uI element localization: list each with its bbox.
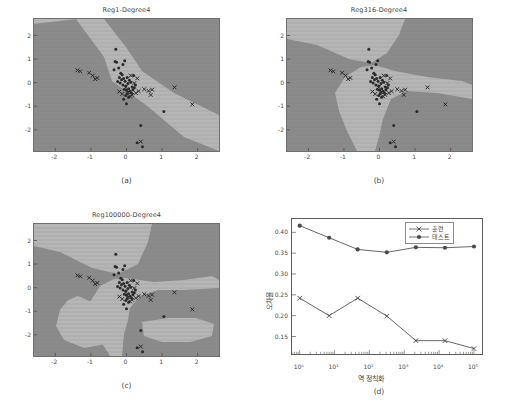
scatter-point-circle [124,94,127,97]
scatter-point-circle [392,124,395,127]
scatter-point-circle [114,48,117,51]
scatter-point-circle [386,86,389,89]
x-tick-label: 0 [377,153,381,160]
y-tick-label: -1 [21,307,31,314]
x-tick-label: 10² [363,363,373,370]
y-tick-label: 1 [274,55,284,62]
x-tick-label: 10⁵ [468,363,478,370]
scatter-point-circle [139,329,142,332]
legend-label-train: 훈련 [430,225,444,233]
figure-footer [0,407,505,417]
scatter-point-circle [376,59,379,62]
y-tick-label: -2 [21,125,31,132]
data-point-circle [385,250,389,254]
data-point-cross [327,313,332,318]
y-tick-label: 0.40 [267,228,288,235]
scatter-point-circle [133,86,136,89]
x-tick-label: 10⁰ [294,363,304,370]
x-tick-label: 2 [195,358,199,365]
y-tick-label: 1 [21,260,31,267]
scatter-point-circle [126,82,129,85]
panel-b-axes [286,18,473,152]
legend-label-test: 테스트 [430,233,450,241]
panel-a-axes [33,18,220,152]
data-point-circle [472,244,476,248]
panel-c-caption: (c) [0,381,253,390]
y-tick-label: -1 [21,102,31,109]
scatter-point-circle [415,110,418,113]
scatter-point-circle [377,80,380,83]
y-tick-label: 2 [21,236,31,243]
x-tick-label: -2 [304,153,310,160]
decision-region-lobe-right [142,318,214,342]
y-tick-label: 0.35 [267,249,288,256]
scatter-point-circle [141,350,144,353]
data-point-cross [297,296,302,301]
x-tick-label: -2 [51,358,57,365]
x-tick-label: -2 [51,153,57,160]
figure-root: Reg1-Degree4 [0,0,505,417]
y-tick-label: 0.15 [267,332,288,339]
y-tick-label: -2 [21,330,31,337]
scatter-point-circle [374,63,377,66]
line-chart-axes [291,218,483,355]
scatter-point-circle [119,82,122,85]
y-tick-label: 0 [21,78,31,85]
scatter-point-circle [382,81,385,84]
panel-b-plot [287,19,472,151]
line-chart-legend: 훈련 테스트 [405,222,454,244]
scatter-point-circle [394,145,397,148]
scatter-point-circle [116,285,119,288]
scatter-point-circle [118,76,121,79]
panel-a: Reg1-Degree4 [0,0,253,205]
x-tick-label: -1 [87,153,93,160]
scatter-point-circle [121,73,124,76]
x-tick-label: 0 [124,358,128,365]
scatter-point-circle [139,124,142,127]
panel-c: Reg100000-Degree4 [0,205,253,417]
y-tick-label: 0.30 [267,270,288,277]
scatter-point-circle [121,268,124,271]
x-tick-label: 10⁴ [433,363,443,370]
scatter-point-circle [162,315,165,318]
data-point-circle [356,247,360,251]
data-point-cross [385,314,390,319]
scatter-point-circle [117,67,120,70]
scatter-point-circle [126,76,129,79]
scatter-point-circle [129,81,132,84]
y-tick-label: -2 [274,125,284,132]
scatter-point-circle [125,307,128,310]
scatter-point-circle [389,141,392,144]
x-tick-label: -1 [87,358,93,365]
scatter-point-circle [379,82,382,85]
y-tick-label: -1 [274,102,284,109]
scatter-point-circle [132,74,135,77]
panel-b-caption: (b) [253,176,505,185]
scatter-point-circle [123,59,126,62]
x-tick-label: 1 [159,153,163,160]
x-tick-label: 1 [412,153,416,160]
scatter-point-circle [369,80,372,83]
panel-c-plot [34,224,219,356]
data-point-circle [414,245,418,249]
x-tick-label: 0 [124,153,128,160]
data-point-cross [355,296,360,301]
panel-b: Reg316-Degree4 [253,0,505,205]
x-tick-label: -1 [340,153,346,160]
series-line-x [300,298,474,348]
scatter-point-circle [118,281,121,284]
scatter-point-circle [133,291,136,294]
scatter-point-circle [117,272,120,275]
legend-marker-x-icon [408,225,430,233]
scatter-point-circle [121,63,124,66]
y-tick-label: 2 [274,31,284,38]
panel-b-title: Reg316-Degree4 [253,6,505,14]
scatter-point-circle [122,98,125,101]
x-tick-label: 2 [448,153,452,160]
scatter-point-circle [123,264,126,267]
panel-c-axes [33,223,220,357]
scatter-point-circle [372,82,375,85]
scatter-point-circle [124,285,127,288]
scatter-point-circle [367,48,370,51]
scatter-point-circle [378,102,381,105]
